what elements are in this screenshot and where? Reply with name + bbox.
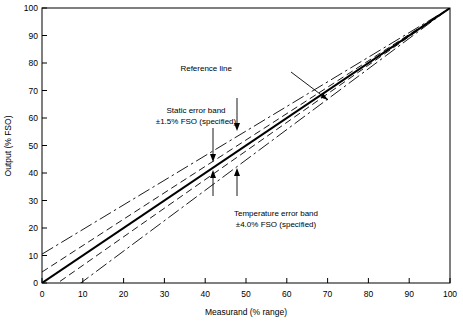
y-tick-label: 40: [29, 168, 39, 178]
reference-line-label: Reference line: [180, 64, 232, 73]
x-tick-label: 30: [160, 289, 170, 299]
static-error-band-label-line1: Static error band: [166, 106, 225, 115]
x-axis-title: Measurand (% range): [205, 307, 287, 317]
x-tick-label: 20: [119, 289, 129, 299]
y-tick-label: 0: [33, 278, 38, 288]
y-tick-label: 60: [29, 113, 39, 123]
y-tick-label: 10: [29, 251, 39, 261]
x-tick-label: 60: [282, 289, 292, 299]
static-error-band-label-line2: ±1.5% FSO (specified): [156, 117, 237, 126]
figure-background: [0, 0, 463, 325]
x-tick-label: 50: [241, 289, 251, 299]
x-tick-label: 10: [78, 289, 88, 299]
y-tick-label: 70: [29, 86, 39, 96]
error-band-chart: 0102030405060708090100 01020304050607080…: [0, 0, 463, 325]
y-tick-label: 100: [24, 3, 38, 13]
temperature-error-band-label-line2: ±4.0% FSO (specified): [236, 220, 317, 229]
temperature-error-band-label-line1: Temperature error band: [234, 209, 318, 218]
x-tick-label: 100: [443, 289, 457, 299]
figure-root: 0102030405060708090100 01020304050607080…: [0, 0, 463, 325]
x-tick-label: 70: [323, 289, 333, 299]
x-tick-label: 80: [364, 289, 374, 299]
x-tick-label: 40: [200, 289, 210, 299]
y-tick-label: 80: [29, 58, 39, 68]
x-tick-label: 0: [40, 289, 45, 299]
y-tick-label: 90: [29, 31, 39, 41]
y-tick-label: 20: [29, 223, 39, 233]
y-tick-label: 50: [29, 141, 39, 151]
y-tick-label: 30: [29, 196, 39, 206]
x-tick-label: 90: [404, 289, 414, 299]
y-axis-title: Output (% FSO): [3, 115, 13, 176]
